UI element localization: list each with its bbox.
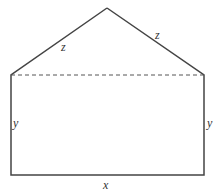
label-roof-left: z [60, 40, 66, 54]
label-roof-right: z [154, 28, 160, 42]
label-wall-left: y [12, 116, 19, 130]
house-diagram: z z y y x [0, 0, 218, 195]
label-wall-right: y [206, 116, 213, 130]
label-base: x [102, 178, 109, 192]
outline [11, 8, 204, 175]
